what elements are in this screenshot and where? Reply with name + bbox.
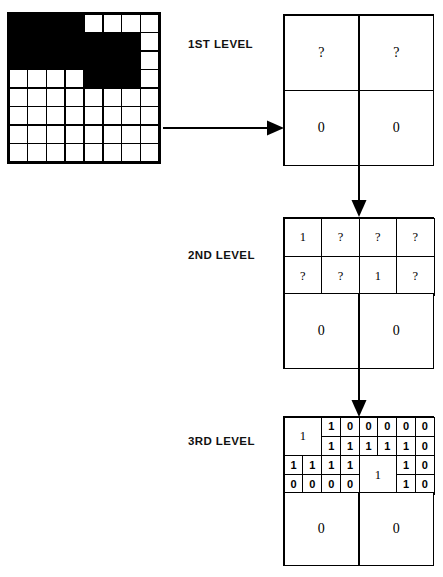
raster-cell-r6-c4 [85, 126, 102, 143]
level3-nw-sw-leaf-ne: 1 [302, 455, 322, 476]
raster-cell-r3-c6 [122, 70, 139, 87]
raster-cell-r4-c1 [28, 89, 45, 106]
raster-cell-r3-c0 [10, 70, 27, 87]
level3-ne-nw-leaf-se: 1 [377, 436, 397, 457]
level3-quadtree-box: 1 1 0 1 1 1 1 0 0 1 1 0 0 0 0 1 1 0 0 1 … [283, 416, 434, 566]
level2-ne-cell-nw: ? [359, 218, 398, 258]
raster-cell-r1-c4 [85, 33, 102, 50]
raster-cell-r5-c6 [122, 107, 139, 124]
level1-label: 1ST LEVEL [188, 38, 253, 50]
raster-cell-r1-c6 [122, 33, 139, 50]
raster-cell-r1-c2 [47, 33, 64, 50]
level3-nw-ne-leaf-sw: 1 [321, 436, 341, 457]
raster-cell-r5-c7 [141, 107, 158, 124]
level3-cell-sw: 0 [284, 492, 360, 566]
raster-cell-r2-c7 [141, 52, 158, 69]
level3-nw-sw-leaf-nw: 1 [284, 455, 304, 476]
raster-cell-r0-c3 [66, 15, 83, 32]
raster-cell-r6-c7 [141, 126, 158, 143]
level3-nw-ne-leaf-nw: 1 [321, 417, 341, 438]
source-raster-grid [7, 12, 161, 164]
raster-cell-r4-c4 [85, 89, 102, 106]
raster-cell-r2-c3 [66, 52, 83, 69]
level3-nw-nw-merged: 1 [284, 417, 323, 457]
raster-cell-r7-c2 [47, 144, 64, 161]
level1-cell-sw: 0 [284, 90, 360, 166]
raster-cell-r4-c7 [141, 89, 158, 106]
figure-canvas: 1ST LEVEL 2ND LEVEL 3RD LEVEL ? ? 0 0 1 … [0, 0, 443, 577]
arrow-level2-to-level3 [346, 369, 372, 418]
raster-cell-r4-c0 [10, 89, 27, 106]
raster-cell-r7-c5 [104, 144, 121, 161]
raster-cell-r2-c2 [47, 52, 64, 69]
level3-ne-ne-leaf-sw: 1 [396, 436, 416, 457]
level3-label: 3RD LEVEL [188, 435, 255, 447]
raster-cell-r3-c7 [141, 70, 158, 87]
level1-cell-nw: ? [284, 15, 360, 92]
level3-ne-ne-leaf-se: 0 [415, 436, 435, 457]
raster-cell-r7-c6 [122, 144, 139, 161]
level2-nw-cell-se: ? [321, 256, 360, 296]
raster-cell-r4-c3 [66, 89, 83, 106]
level2-cell-sw: 0 [284, 293, 360, 369]
raster-cell-r0-c6 [122, 15, 139, 32]
raster-cell-r2-c0 [10, 52, 27, 69]
raster-cell-r2-c4 [85, 52, 102, 69]
raster-cell-r6-c6 [122, 126, 139, 143]
level3-cell-se: 0 [359, 492, 435, 566]
level1-quadtree-box: ? ? 0 0 [283, 14, 434, 166]
raster-cell-r0-c1 [28, 15, 45, 32]
level3-nw-ne-leaf-ne: 0 [340, 417, 360, 438]
level2-ne-cell-sw: 1 [359, 256, 398, 296]
level2-cell-se: 0 [359, 293, 435, 369]
raster-cell-r5-c2 [47, 107, 64, 124]
raster-cell-r7-c3 [66, 144, 83, 161]
raster-cell-r2-c6 [122, 52, 139, 69]
arrow-level1-to-level2 [346, 166, 372, 218]
level2-label: 2ND LEVEL [188, 249, 255, 261]
raster-cell-r3-c5 [104, 70, 121, 87]
raster-cell-r6-c1 [28, 126, 45, 143]
raster-cell-r3-c1 [28, 70, 45, 87]
raster-cell-r0-c2 [47, 15, 64, 32]
raster-cell-r1-c5 [104, 33, 121, 50]
raster-cell-r1-c7 [141, 33, 158, 50]
level2-nw-cell-nw: 1 [284, 218, 323, 258]
level2-ne-cell-se: ? [396, 256, 435, 296]
level3-ne-ne-leaf-ne: 0 [415, 417, 435, 438]
raster-cell-r5-c4 [85, 107, 102, 124]
raster-cell-r1-c0 [10, 33, 27, 50]
raster-cell-r3-c3 [66, 70, 83, 87]
level3-ne-nw-leaf-ne: 0 [377, 417, 397, 438]
raster-cell-r2-c1 [28, 52, 45, 69]
raster-cell-r6-c3 [66, 126, 83, 143]
raster-cell-r7-c0 [10, 144, 27, 161]
raster-cell-r0-c5 [104, 15, 121, 32]
raster-cell-r5-c5 [104, 107, 121, 124]
level3-nw-ne-leaf-se: 1 [340, 436, 360, 457]
level3-ne-se-leaf-nw: 1 [396, 455, 416, 476]
level1-cell-se: 0 [359, 90, 435, 166]
raster-cell-r5-c3 [66, 107, 83, 124]
raster-cell-r0-c0 [10, 15, 27, 32]
level2-nw-cell-ne: ? [321, 218, 360, 258]
raster-cell-r4-c2 [47, 89, 64, 106]
level2-nw-cell-sw: ? [284, 256, 323, 296]
raster-cell-r7-c1 [28, 144, 45, 161]
level3-ne-se-leaf-ne: 0 [415, 455, 435, 476]
raster-cell-r2-c5 [104, 52, 121, 69]
arrow-source-to-level1 [163, 115, 285, 141]
raster-cell-r7-c7 [141, 144, 158, 161]
raster-cell-r0-c7 [141, 15, 158, 32]
raster-cell-r5-c1 [28, 107, 45, 124]
raster-cell-r6-c0 [10, 126, 27, 143]
raster-cell-r3-c4 [85, 70, 102, 87]
raster-cell-r6-c2 [47, 126, 64, 143]
raster-cell-r1-c1 [28, 33, 45, 50]
raster-cell-r7-c4 [85, 144, 102, 161]
raster-cell-r5-c0 [10, 107, 27, 124]
raster-cell-r1-c3 [66, 33, 83, 50]
level3-ne-sw-merged: 1 [359, 455, 398, 495]
raster-cell-r4-c5 [104, 89, 121, 106]
level1-cell-ne: ? [359, 15, 435, 92]
